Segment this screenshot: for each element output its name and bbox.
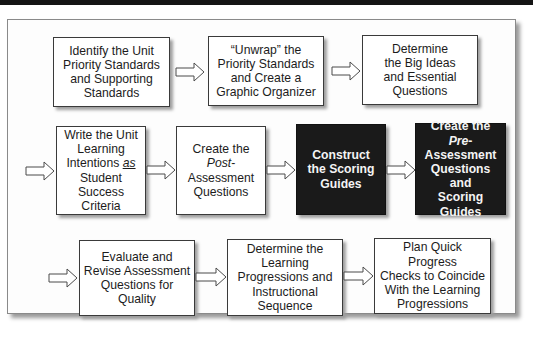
step-4-text-b: Student Success Criteria [78, 171, 124, 213]
arrow-right-icon [386, 160, 416, 180]
arrow-right-icon [146, 160, 176, 180]
step-2-unwrap-standards: “Unwrap” the Priority Standards and Crea… [208, 36, 324, 106]
step-5-label: Create the Post- Assessment Questions [188, 142, 254, 199]
step-6-scoring-guides: Construct the Scoring Guides [296, 124, 386, 215]
step-4-emphasis: as [123, 156, 136, 170]
arrow-right-icon [331, 61, 361, 81]
step-3-big-ideas: Determine the Big Ideas and Essential Qu… [362, 35, 478, 105]
step-9-label: Determine the Learning Progressions and … [238, 242, 333, 313]
step-5-text-a: Create the [193, 142, 250, 156]
arrow-right-icon [343, 266, 374, 286]
arrow-right-icon [195, 267, 227, 287]
step-3-label: Determine the Big Ideas and Essential Qu… [383, 42, 456, 99]
step-7-text-a: Create the [431, 119, 491, 133]
step-9-learning-progressions: Determine the Learning Progressions and … [227, 239, 343, 316]
step-8-label: Evaluate and Revise Assessment Questions… [84, 250, 190, 307]
arrow-right-icon [266, 160, 296, 180]
step-1-identify-standards: Identify the Unit Priority Standards and… [53, 37, 170, 107]
step-10-label: Plan Quick Progress Checks to Coincide W… [378, 240, 487, 311]
step-7-pre-assessment: Create the Pre- Assessment Questions and… [415, 123, 506, 215]
arrow-right-icon [25, 161, 55, 181]
step-6-label: Construct the Scoring Guides [307, 148, 374, 191]
step-4-label: Write the Unit Learning Intentions as St… [64, 128, 138, 213]
step-2-label: “Unwrap” the Priority Standards and Crea… [216, 43, 316, 100]
step-7-label: Create the Pre- Assessment Questions and… [419, 119, 502, 218]
arrow-right-icon [48, 268, 78, 288]
step-10-progress-checks: Plan Quick Progress Checks to Coincide W… [374, 238, 491, 314]
step-8-evaluate-questions: Evaluate and Revise Assessment Questions… [79, 240, 195, 316]
arrow-right-icon [175, 62, 205, 82]
step-5-emphasis: Post [207, 156, 231, 170]
step-1-label: Identify the Unit Priority Standards and… [63, 44, 160, 101]
step-4-learning-intentions: Write the Unit Learning Intentions as St… [56, 126, 146, 215]
top-bar [0, 0, 533, 5]
step-5-post-assessment: Create the Post- Assessment Questions [176, 126, 266, 215]
step-7-emphasis: Pre [449, 134, 469, 148]
